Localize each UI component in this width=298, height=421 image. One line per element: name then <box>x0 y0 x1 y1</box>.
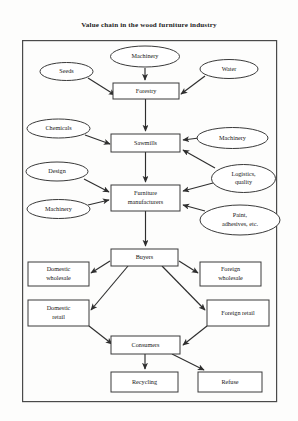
node-recycling[interactable]: Recycling <box>111 372 178 392</box>
node-buyers[interactable]: Buyers <box>111 249 178 266</box>
node-machinery1[interactable]: Machinery <box>111 46 180 67</box>
edge-logistics-to-furniture <box>183 183 213 191</box>
node-label-chemicals: Chemicals <box>45 124 72 131</box>
node-label-logistics-line1: Logistics, <box>231 170 256 177</box>
node-chemicals[interactable]: Chemicals <box>27 119 90 138</box>
node-furniture[interactable]: Furnituremanufacturers <box>111 185 180 211</box>
nodes-layer: SeedsMachineryWaterForestryChemicalsMach… <box>26 46 280 392</box>
edge-water-to-forestry <box>181 76 205 94</box>
node-label-design: Design <box>48 167 66 174</box>
node-label-forretail: Foreign retail <box>221 309 255 316</box>
node-label-consumers: Consumers <box>132 341 160 348</box>
node-logistics[interactable]: Logistics,quality <box>212 165 276 193</box>
edge-logistics-to-sawmills <box>183 150 215 168</box>
node-seeds[interactable]: Seeds <box>40 63 93 81</box>
node-label-machinery3: Machinery <box>45 205 73 212</box>
node-forestry[interactable]: Forestry <box>113 83 179 99</box>
node-label-paint-line1: Paint, <box>233 211 248 218</box>
node-label-recycling: Recycling <box>132 378 157 385</box>
edge-paint-to-furniture <box>183 205 205 211</box>
node-forretail[interactable]: Foreign retail <box>207 300 269 326</box>
edge-buyers-to-forwholesale <box>179 261 198 273</box>
edge-forretail-to-consumers <box>183 326 207 345</box>
node-label-domretail-line2: retail <box>52 313 65 320</box>
node-label-domretail-line1: Domestic <box>47 304 71 311</box>
node-label-seeds: Seeds <box>59 67 74 74</box>
node-label-sawmills: Sawmills <box>134 139 158 146</box>
node-machinery3[interactable]: Machinery <box>27 200 90 219</box>
edge-buyers-to-forretail <box>162 266 205 310</box>
edge-machinery3-to-furniture <box>88 200 109 205</box>
node-paint[interactable]: Paint,adhesives, etc. <box>200 205 280 235</box>
node-label-domwholesale-line1: Domestic <box>47 265 71 272</box>
node-water[interactable]: Water <box>200 60 258 79</box>
node-label-furniture-line2: manufacturers <box>128 198 164 205</box>
node-label-water: Water <box>222 65 237 72</box>
node-label-furniture-line1: Furniture <box>134 189 157 196</box>
node-consumers[interactable]: Consumers <box>111 336 180 354</box>
node-label-refuse: Refuse <box>221 378 238 385</box>
node-machinery2[interactable]: Machinery <box>197 128 268 149</box>
node-domwholesale[interactable]: Domesticwholesale <box>28 262 89 286</box>
node-forwholesale[interactable]: Foreignwholesale <box>200 262 261 286</box>
edge-buyers-to-domretail <box>91 266 128 310</box>
edge-seeds-to-forestry <box>88 78 115 95</box>
node-label-machinery1: Machinery <box>132 52 160 59</box>
node-label-forwholesale-line2: wholesale <box>218 274 243 281</box>
diagram-page: Value chain in the wood furniture indust… <box>0 0 298 421</box>
edge-chemicals-to-sawmills <box>85 135 110 144</box>
node-label-logistics-line2: quality <box>235 178 253 185</box>
edges-layer <box>84 68 215 370</box>
node-label-forwholesale-line1: Foreign <box>221 265 240 272</box>
edge-design-to-furniture <box>84 179 109 192</box>
edge-consumers-to-refuse <box>172 354 204 370</box>
node-label-buyers: Buyers <box>136 253 154 260</box>
node-label-paint-line2: adhesives, etc. <box>222 220 258 227</box>
node-design[interactable]: Design <box>26 162 88 181</box>
node-domretail[interactable]: Domesticretail <box>28 300 89 326</box>
edge-buyers-to-domwholesale <box>91 261 110 273</box>
node-label-domwholesale-line2: wholesale <box>46 274 71 281</box>
edge-domretail-to-consumers <box>89 326 112 344</box>
node-sawmills[interactable]: Sawmills <box>111 134 180 152</box>
node-refuse[interactable]: Refuse <box>198 372 262 392</box>
node-label-machinery2: Machinery <box>219 134 247 141</box>
node-label-forestry: Forestry <box>136 87 158 94</box>
value-chain-flowchart: SeedsMachineryWaterForestryChemicalsMach… <box>0 0 298 421</box>
